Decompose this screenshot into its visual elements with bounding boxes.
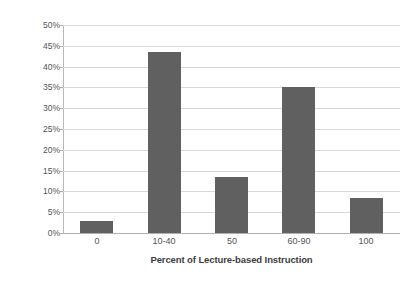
- bar: [148, 52, 181, 233]
- y-axis-tick-label: 30%: [30, 103, 60, 113]
- y-axis-tick-label: 15%: [30, 166, 60, 176]
- bar: [282, 87, 315, 233]
- bar-chart: Percent of Respondents 0%5%10%15%20%25%3…: [0, 0, 420, 282]
- y-axis-tick-labels: 0%5%10%15%20%25%30%35%40%45%50%: [30, 25, 60, 233]
- y-axis-tick-label: 50%: [30, 20, 60, 30]
- x-axis-tick-label: 10-40: [129, 236, 199, 246]
- bar-series: [63, 25, 400, 233]
- y-axis-tick-label: 40%: [30, 62, 60, 72]
- x-axis-line: [63, 233, 400, 234]
- y-axis-tick-label: 25%: [30, 124, 60, 134]
- plot-area: [63, 25, 400, 233]
- x-axis-title: Percent of Lecture-based Instruction: [63, 254, 400, 265]
- bar: [215, 177, 248, 233]
- x-axis-tick-labels: 010-405060-90100: [63, 236, 400, 250]
- x-axis-tick-label: 0: [62, 236, 132, 246]
- y-axis-tickmark: [60, 233, 63, 234]
- bar: [350, 198, 383, 233]
- x-axis-tick-label: 60-90: [264, 236, 334, 246]
- x-axis-tick-label: 100: [331, 236, 401, 246]
- y-axis-tick-label: 0%: [30, 228, 60, 238]
- y-axis-tick-label: 45%: [30, 41, 60, 51]
- y-axis-tick-label: 35%: [30, 82, 60, 92]
- bar: [80, 221, 113, 233]
- y-axis-tick-label: 20%: [30, 145, 60, 155]
- y-axis-tick-label: 10%: [30, 186, 60, 196]
- y-axis-tick-label: 5%: [30, 207, 60, 217]
- x-axis-tick-label: 50: [197, 236, 267, 246]
